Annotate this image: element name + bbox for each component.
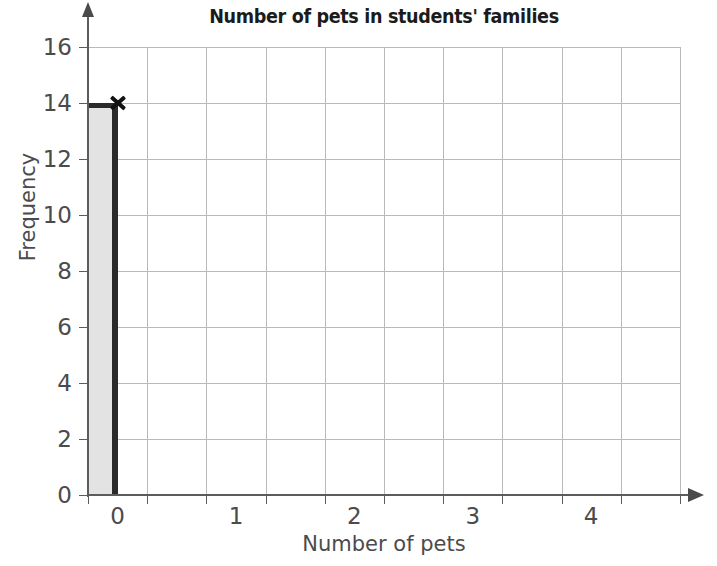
y-axis-tick-label: 4 bbox=[57, 370, 72, 396]
x-axis-tick-label: 4 bbox=[584, 503, 599, 529]
x-axis-tick-label: 0 bbox=[110, 503, 125, 529]
x-axis-line bbox=[88, 494, 692, 496]
y-axis-tick bbox=[79, 215, 88, 216]
x-axis-tick bbox=[147, 495, 148, 504]
y-axis-tick-label: 12 bbox=[43, 146, 72, 172]
chart-title: Number of pets in students' families bbox=[124, 4, 645, 28]
x-axis-tick bbox=[206, 495, 207, 504]
gridline-horizontal bbox=[88, 47, 680, 48]
y-axis-tick bbox=[79, 495, 88, 496]
x-axis-tick-label: 2 bbox=[347, 503, 362, 529]
gridline-horizontal bbox=[88, 215, 680, 216]
x-axis-tick-label: 1 bbox=[229, 503, 244, 529]
x-axis-arrow-icon bbox=[688, 488, 704, 502]
gridline-vertical bbox=[680, 47, 681, 495]
y-axis-tick-label: 10 bbox=[43, 202, 72, 228]
y-axis-tick bbox=[79, 271, 88, 272]
x-axis-tick bbox=[443, 495, 444, 504]
gridline-horizontal bbox=[88, 271, 680, 272]
y-axis-tick bbox=[79, 103, 88, 104]
y-axis-tick-label: 16 bbox=[43, 34, 72, 60]
y-axis-tick bbox=[79, 439, 88, 440]
y-axis-tick-label: 8 bbox=[57, 258, 72, 284]
plot-area bbox=[88, 47, 680, 495]
gridline-horizontal bbox=[88, 327, 680, 328]
y-axis-tick-label: 0 bbox=[57, 482, 72, 508]
x-axis-tick bbox=[680, 495, 681, 504]
x-axis-tick bbox=[266, 495, 267, 504]
data-point-marker bbox=[109, 94, 127, 112]
x-axis-tick-label: 3 bbox=[465, 503, 480, 529]
y-axis-tick-label: 2 bbox=[57, 426, 72, 452]
x-axis-tick bbox=[88, 495, 89, 504]
x-axis-tick bbox=[621, 495, 622, 504]
gridline-horizontal bbox=[88, 383, 680, 384]
y-axis-arrow-icon bbox=[82, 2, 94, 17]
y-axis-line bbox=[87, 14, 89, 497]
y-axis-tick-label: 6 bbox=[57, 314, 72, 340]
x-axis-tick bbox=[384, 495, 385, 504]
gridline-horizontal bbox=[88, 159, 680, 160]
gridline-horizontal bbox=[88, 439, 680, 440]
x-axis-title: Number of pets bbox=[88, 532, 680, 556]
bar-chart: Number of pets in students' families 024… bbox=[0, 0, 717, 566]
y-axis-tick bbox=[79, 47, 88, 48]
y-axis-title: Frequency bbox=[16, 137, 40, 277]
gridline-horizontal bbox=[88, 103, 680, 104]
x-axis-tick bbox=[502, 495, 503, 504]
x-axis-tick bbox=[562, 495, 563, 504]
bar-right-edge bbox=[112, 103, 118, 495]
y-axis-tick-label: 14 bbox=[43, 90, 72, 116]
x-axis-tick bbox=[325, 495, 326, 504]
y-axis-tick bbox=[79, 159, 88, 160]
y-axis-tick bbox=[79, 383, 88, 384]
y-axis-tick bbox=[79, 327, 88, 328]
